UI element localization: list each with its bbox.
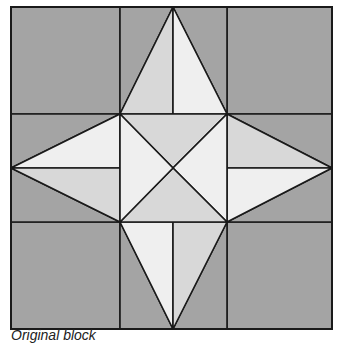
figure-caption: Original block (11, 327, 96, 343)
corner-square-top-left (11, 7, 120, 114)
corner-square-bottom-right (227, 222, 332, 329)
quilt-block-diagram (0, 0, 340, 330)
corner-square-bottom-left (11, 222, 120, 329)
corner-square-top-right (227, 7, 332, 114)
